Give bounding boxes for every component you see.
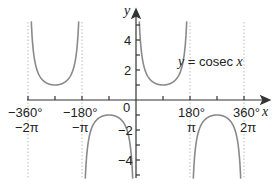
- cosec-graph: y x 0 4 2 −2 −4 −360° −2π −180° −π 180° …: [0, 0, 275, 185]
- y-axis-arrow-icon: [132, 9, 140, 18]
- x-tick-label-neg2pi: −2π: [15, 120, 39, 135]
- x-tick-label-neg180: −180°: [63, 105, 97, 120]
- curve-label: y = cosec x: [176, 54, 244, 69]
- x-tick-label-negpi: −π: [72, 120, 89, 135]
- origin-label: 0: [123, 100, 130, 115]
- x-tick-label-180: 180°: [178, 105, 205, 120]
- y-tick-label-4: 4: [124, 33, 131, 48]
- curve-branch-4: [193, 115, 240, 179]
- y-axis-label: y: [122, 3, 131, 18]
- x-tick-label-360: 360°: [233, 105, 260, 120]
- axes: [27, 9, 270, 178]
- y-tick-label-neg2: −2: [118, 123, 133, 138]
- curve-branch-1: [31, 21, 78, 85]
- x-tick-label-2pi: 2π: [240, 120, 256, 135]
- x-tick-label-neg360: −360°: [8, 105, 42, 120]
- y-tick-label-2: 2: [124, 63, 131, 78]
- x-axis-arrow-icon: [261, 96, 270, 104]
- y-tick-label-neg4: −4: [118, 153, 133, 168]
- x-axis-label: x: [261, 104, 269, 119]
- x-tick-label-pi: π: [187, 120, 196, 135]
